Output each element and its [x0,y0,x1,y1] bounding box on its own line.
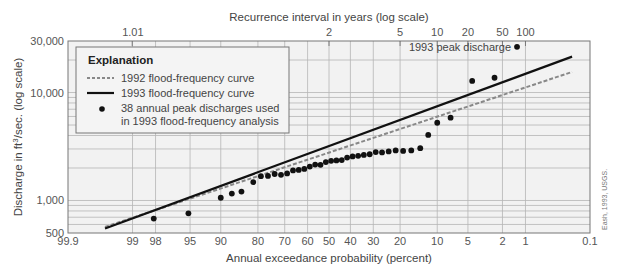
annual-peak-point [318,162,324,168]
annual-peak-point [373,149,379,155]
x-tick-label: 50 [323,235,335,247]
legend-title: Explanation [88,54,153,66]
legend-dot-swatch [99,106,105,112]
legend: Explanation 1992 flood-frequency curve 1… [76,47,289,133]
peak-discharge-point [514,44,520,50]
top-axis-title: Recurrence interval in years (log scale) [229,11,429,23]
annual-peak-point [239,189,245,195]
annual-peak-point [218,195,224,201]
x-tick-label: 20 [394,235,406,247]
annual-peak-point [393,148,399,154]
flood-frequency-chart: Explanation 1992 flood-frequency curve 1… [0,0,624,271]
annual-peak-point [379,149,385,155]
annual-peak-point [386,148,392,154]
x-tick-label: 40 [344,235,356,247]
annual-peak-point [151,216,157,222]
annual-peak-point [408,148,414,154]
x-tick-label: 5 [465,235,471,247]
bottom-axis-tick-labels: 99.99998959080706050403020105210.1 [57,235,597,247]
x-tick-label: 80 [252,235,264,247]
x-tick-label: 60 [301,235,313,247]
source-credit: Eash, 1993, USGS. [601,169,608,230]
annual-peak-point [296,167,302,173]
y-tick-label: 10,000 [30,87,64,99]
x-axis-title: Annual exceedance probability (percent) [226,252,432,264]
x-tick-label: 95 [184,235,196,247]
annual-peak-point [469,78,475,84]
annual-peak-point [323,159,329,165]
x-tick-label: 1 [522,235,528,247]
annual-peak-point [339,157,345,163]
annual-peak-point [448,115,454,121]
top-axis-tick-label: 20 [462,26,474,38]
x-tick-label: 10 [431,235,443,247]
top-axis-tick-label: 10 [431,26,443,38]
x-tick-label: 98 [149,235,161,247]
top-axis-tick-label: 1.01 [122,26,143,38]
y-axis-title: Discharge in ft3/sec. (log scale) [11,58,24,217]
annual-peak-point [425,132,431,138]
y-tick-label: 1,000 [36,194,64,206]
annual-peak-point [272,171,278,177]
annual-peak-point [301,166,307,172]
x-tick-label: 0.1 [582,235,597,247]
top-axis-tick-label: 50 [496,26,508,38]
top-axis-tick-label: 100 [516,26,534,38]
top-axis-tick-label: 2 [326,26,332,38]
annual-peak-point [400,148,406,154]
top-axis-tick-label: 5 [397,26,403,38]
annual-peak-point [361,152,367,158]
y-tick-label: 30,000 [30,35,64,47]
x-tick-label: 30 [367,235,379,247]
top-axis-tick-labels: 1.0125102050100 [122,26,534,38]
annual-peak-point [278,172,284,178]
left-axis-tick-labels: 5001,00010,00030,000 [30,35,64,239]
y-axis-title-rest: /sec. (log scale) [12,58,24,139]
annual-peak-point [492,75,498,81]
annual-peak-point [250,179,256,185]
annual-peak-point [258,173,264,179]
peak-discharge-annotation: 1993 peak discharge [409,41,511,53]
y-axis-title-main: Discharge in ft [12,142,24,216]
legend-label-points-line2: in 1993 flood-frequency analysis [121,115,279,127]
annual-peak-point [328,158,334,164]
annual-peak-point [307,164,313,170]
legend-label-points-line1: 38 annual peak discharges used [121,102,279,114]
legend-label-1993: 1993 flood-frequency curve [121,87,254,99]
annual-peak-point [290,167,296,173]
annual-peak-point [417,145,423,151]
annual-peak-point [312,162,318,168]
x-tick-label: 70 [279,235,291,247]
x-tick-label: 2 [499,235,505,247]
annual-peak-point [265,173,271,179]
x-tick-label: 90 [215,235,227,247]
annual-peak-point [344,155,350,161]
annual-peak-point [355,153,361,159]
annual-peak-point [284,171,290,177]
annual-peak-point [229,191,235,197]
y-tick-label: 500 [46,227,64,239]
annual-peak-point [367,151,373,157]
legend-label-1992: 1992 flood-frequency curve [121,72,254,84]
annual-peak-point [350,154,356,160]
annual-peak-point [186,210,192,216]
annual-peak-point [434,120,440,126]
annual-peak-point [334,158,340,164]
x-tick-label: 99 [126,235,138,247]
